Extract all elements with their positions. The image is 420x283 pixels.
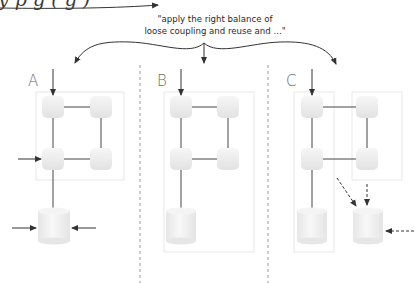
service-node xyxy=(42,96,64,118)
service-node xyxy=(90,96,112,118)
heading-underline-arrow xyxy=(0,5,158,8)
panel-c xyxy=(294,69,414,252)
service-node xyxy=(356,96,378,118)
service-node xyxy=(170,96,192,118)
service-node xyxy=(301,148,323,170)
database-cylinder xyxy=(166,208,196,245)
service-node xyxy=(90,148,112,170)
service-node xyxy=(356,148,378,170)
dashed-arrow-icon xyxy=(337,178,356,206)
panel-b xyxy=(164,69,254,252)
panel-a xyxy=(12,69,124,245)
service-node xyxy=(301,96,323,118)
database-cylinder xyxy=(38,208,70,245)
database-cylinder-secondary xyxy=(353,208,383,245)
curly-brace-arrows xyxy=(75,42,336,64)
diagram-canvas xyxy=(0,0,420,283)
service-node xyxy=(170,148,192,170)
service-node xyxy=(217,148,239,170)
service-node xyxy=(42,148,64,170)
service-node xyxy=(217,96,239,118)
database-cylinder xyxy=(297,208,327,245)
